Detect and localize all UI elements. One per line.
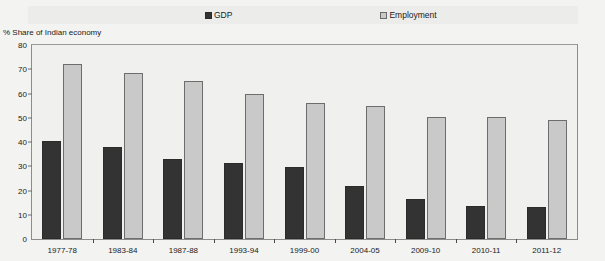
x-axis-tick-mark: [214, 239, 215, 243]
y-axis-tick-label: 30: [1, 162, 27, 171]
y-axis-tick-mark: [28, 117, 32, 118]
y-axis-tick-mark: [28, 69, 32, 70]
bar-employment-2010-11: [487, 117, 506, 239]
x-axis-tick-mark: [274, 239, 275, 243]
bar-gdp-1983-84: [103, 147, 122, 239]
bar-employment-1987-88: [184, 81, 203, 239]
chart-legend: GDP Employment: [28, 6, 578, 24]
bar-gdp-1987-88: [163, 159, 182, 239]
y-axis-tick-label: 10: [1, 210, 27, 219]
y-axis-tick-mark: [28, 93, 32, 94]
y-axis-tick-label: 0: [1, 235, 27, 244]
bar-employment-1983-84: [124, 73, 143, 239]
legend-item-employment: Employment: [380, 10, 436, 20]
legend-label-employment: Employment: [389, 10, 436, 20]
y-axis-tick-label: 60: [1, 89, 27, 98]
bar-gdp-2010-11: [466, 206, 485, 239]
y-axis-tick-label: 70: [1, 65, 27, 74]
bar-gdp-2009-10: [406, 199, 425, 239]
x-axis-tick-label: 2009-10: [411, 246, 440, 255]
plot-inner: 010203040506070801977-781983-841987-8819…: [32, 45, 577, 239]
bar-employment-1993-94: [245, 94, 264, 240]
bar-gdp-2004-05: [345, 186, 364, 239]
x-axis-tick-label: 1983-84: [108, 246, 137, 255]
bar-employment-2004-05: [366, 106, 385, 239]
y-axis-tick-mark: [28, 190, 32, 191]
bar-employment-2011-12: [548, 120, 567, 239]
plot-area: 010203040506070801977-781983-841987-8819…: [31, 44, 578, 240]
x-axis-tick-label: 1993-94: [229, 246, 258, 255]
x-axis-tick-mark: [93, 239, 94, 243]
legend-label-gdp: GDP: [214, 10, 232, 20]
x-axis-tick-mark: [335, 239, 336, 243]
legend-swatch-gdp-icon: [205, 12, 212, 19]
bar-employment-2009-10: [427, 117, 446, 239]
legend-swatch-employment-icon: [380, 12, 387, 19]
x-axis-tick-label: 2004-05: [350, 246, 379, 255]
bar-employment-1977-78: [63, 64, 82, 239]
y-axis-tick-label: 50: [1, 113, 27, 122]
x-axis-tick-label: 1987-88: [169, 246, 198, 255]
x-axis-tick-label: 1977-78: [48, 246, 77, 255]
x-axis-tick-label: 2011-12: [532, 246, 561, 255]
x-axis-tick-mark: [456, 239, 457, 243]
y-axis-tick-label: 40: [1, 138, 27, 147]
x-axis-tick-mark: [516, 239, 517, 243]
x-axis-tick-label: 2010-11: [472, 246, 501, 255]
bar-gdp-1993-94: [224, 163, 243, 239]
x-axis-tick-mark: [395, 239, 396, 243]
bar-employment-1999-00: [306, 103, 325, 239]
y-axis-tick-mark: [28, 166, 32, 167]
y-axis-tick-mark: [28, 214, 32, 215]
legend-item-gdp: GDP: [205, 10, 232, 20]
y-axis-tick-mark: [28, 142, 32, 143]
y-axis-title: % Share of Indian economy: [3, 28, 101, 37]
y-axis-tick-label: 80: [1, 41, 27, 50]
y-axis-tick-label: 20: [1, 186, 27, 195]
bar-gdp-2011-12: [527, 207, 546, 239]
x-axis-tick-mark: [153, 239, 154, 243]
chart-container: GDP Employment % Share of Indian economy…: [0, 0, 605, 261]
x-axis-tick-label: 1999-00: [290, 246, 319, 255]
bar-gdp-1999-00: [285, 167, 304, 239]
bar-gdp-1977-78: [42, 141, 61, 239]
